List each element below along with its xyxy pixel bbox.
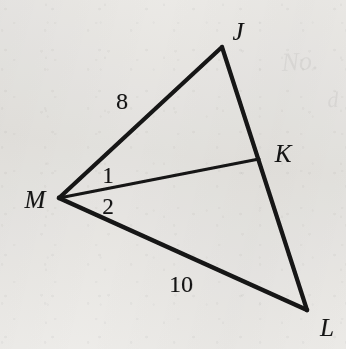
segment-JL — [222, 47, 307, 310]
vertex-label-J: J — [232, 19, 243, 44]
angle-label-1: 1 — [102, 164, 114, 187]
segment-MK — [59, 159, 259, 198]
length-label-MJ: 8 — [116, 89, 128, 113]
segment-MJ — [59, 47, 222, 198]
angle-label-2: 2 — [102, 195, 114, 218]
vertex-label-M: M — [25, 187, 46, 212]
length-label-ML: 10 — [169, 272, 193, 296]
vertex-label-L: L — [320, 315, 334, 340]
vertex-label-K: K — [275, 141, 292, 166]
geometry-figure: No. d J M K L 8 10 1 2 — [0, 0, 346, 349]
